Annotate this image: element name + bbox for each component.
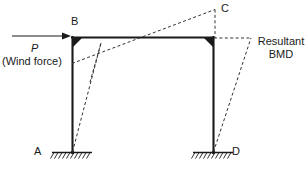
resultant-bmd-caption: Resultant BMD (254, 35, 308, 60)
support-label-a: A (34, 145, 41, 158)
frame-diagram-canvas (0, 0, 308, 173)
wind-force-arrow (12, 32, 71, 39)
rigid-joint-marker-c (204, 38, 213, 47)
bmd-right-column (214, 38, 252, 152)
force-symbol-label: P (31, 42, 38, 55)
resultant-bmd-caption-line2: BMD (254, 48, 308, 61)
bmd-figure: B C A D P (Wind force) Resultant BMD (0, 0, 308, 173)
rigid-joint-marker-b (73, 38, 82, 47)
resultant-bmd-caption-line1: Resultant (258, 35, 304, 47)
joint-label-c: C (221, 2, 229, 15)
support-label-d: D (232, 145, 240, 158)
force-description-label: (Wind force) (2, 55, 62, 68)
fixed-support-d (192, 151, 234, 159)
joint-label-b: B (71, 15, 78, 28)
fixed-support-a (51, 151, 93, 159)
